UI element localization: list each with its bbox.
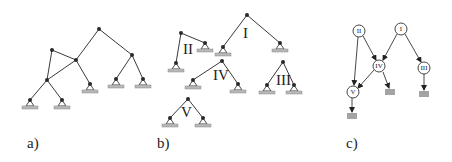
panel-c: II I IV III V c) <box>346 23 430 152</box>
substructure-IV: IV <box>185 59 246 93</box>
graph-node-I: I <box>395 23 407 35</box>
label-IV: IV <box>213 67 229 83</box>
panel-label-b: b) <box>157 135 170 152</box>
svg-text:IV: IV <box>375 62 382 70</box>
graph-node-IV: IV <box>373 60 385 72</box>
substructure-V: V <box>162 97 211 127</box>
ground-icon <box>385 90 395 94</box>
figure-canvas: a) I II <box>0 0 452 162</box>
graph-node-V: V <box>347 86 359 98</box>
graph-node-III: III <box>418 62 430 74</box>
ground-icon <box>347 114 357 118</box>
panel-a-supports <box>22 79 151 109</box>
panel-a: a) <box>22 27 151 152</box>
svg-text:II: II <box>357 27 362 35</box>
label-I: I <box>243 25 248 41</box>
graph-node-II: II <box>353 25 365 37</box>
panel-label-c: c) <box>346 135 358 152</box>
label-II: II <box>183 41 193 57</box>
svg-text:V: V <box>350 88 355 96</box>
substructure-II: II <box>168 31 213 72</box>
panel-c-edges <box>352 34 424 112</box>
ground-icon <box>419 92 429 96</box>
label-III: III <box>276 72 291 88</box>
svg-text:III: III <box>421 64 429 72</box>
panel-label-a: a) <box>27 135 39 152</box>
panel-c-grounds <box>347 90 429 118</box>
substructure-III: III <box>259 60 302 94</box>
label-V: V <box>181 104 192 120</box>
substructure-I: I <box>215 13 288 56</box>
panel-b: I II IV <box>157 13 302 152</box>
